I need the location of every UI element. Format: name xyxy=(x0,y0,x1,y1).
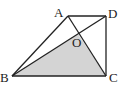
label-c: C xyxy=(109,70,118,85)
label-b: B xyxy=(0,70,9,85)
label-a: A xyxy=(54,5,64,20)
trapezoid-diagram: A D O B C xyxy=(0,0,126,93)
label-d: D xyxy=(108,6,117,21)
label-o: O xyxy=(72,35,81,50)
shaded-triangle-obc xyxy=(12,34,106,76)
